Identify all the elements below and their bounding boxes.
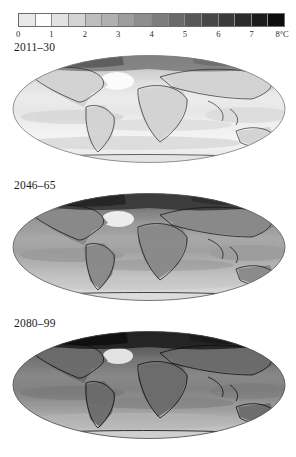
colorbar-cell-12 — [219, 14, 236, 26]
climate-projection-figure: 012345678°C 2011–30 — [0, 0, 296, 457]
colorbar-tick-7: 7 — [250, 28, 254, 40]
colorbar-cell-14 — [252, 14, 269, 26]
colorbar-tick-6: 6 — [216, 28, 220, 40]
panel-label: 2011–30 — [14, 41, 55, 54]
colorbar-tick-1: 1 — [49, 28, 53, 40]
colorbar-tick-8: 8°C — [275, 28, 288, 40]
colorbar-cell-10 — [185, 14, 202, 26]
colorbar-tick-2: 2 — [83, 28, 87, 40]
colorbar-cell-7 — [135, 14, 152, 26]
colorbar-tick-5: 5 — [183, 28, 187, 40]
colorbar-cell-6 — [119, 14, 136, 26]
map-svg — [12, 55, 286, 163]
colorbar-cell-9 — [169, 14, 186, 26]
colorbar-cell-13 — [235, 14, 252, 26]
colorbar-tick-3: 3 — [116, 28, 120, 40]
colorbar-cell-4 — [86, 14, 103, 26]
colorbar-cell-15 — [268, 14, 284, 26]
panel-label: 2080–99 — [14, 317, 56, 330]
world-map-2046-65 — [12, 193, 286, 301]
colorbar-cell-2 — [52, 14, 69, 26]
colorbar-tick-labels: 012345678°C — [18, 28, 285, 42]
world-map-2080-99 — [12, 331, 286, 439]
colorbar: 012345678°C — [18, 13, 285, 42]
world-map-2011-30 — [12, 55, 286, 163]
colorbar-cell-3 — [69, 14, 86, 26]
map-svg — [12, 331, 286, 439]
colorbar-cell-8 — [152, 14, 169, 26]
colorbar-cell-11 — [202, 14, 219, 26]
map-svg — [12, 193, 286, 301]
colorbar-strip — [18, 13, 285, 27]
colorbar-cell-5 — [102, 14, 119, 26]
panel-label: 2046–65 — [14, 179, 56, 192]
colorbar-cell-1 — [36, 14, 53, 26]
colorbar-tick-0: 0 — [16, 28, 20, 40]
colorbar-tick-4: 4 — [149, 28, 153, 40]
colorbar-cell-0 — [19, 14, 36, 26]
